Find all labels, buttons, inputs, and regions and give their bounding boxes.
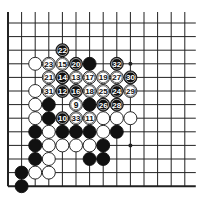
move-number: 21 xyxy=(44,73,53,82)
white-stone: 9 xyxy=(70,98,83,111)
black-stone xyxy=(29,125,42,138)
move-number: 23 xyxy=(44,60,53,69)
move-number: 26 xyxy=(99,101,108,110)
go-board: 2223152032211413171927303112161825242992… xyxy=(0,0,203,201)
move-number: 27 xyxy=(112,73,121,82)
white-stone xyxy=(29,57,42,70)
star-point xyxy=(128,143,132,147)
move-number: 19 xyxy=(99,73,108,82)
black-stone xyxy=(83,125,96,138)
black-stone: 30 xyxy=(124,71,137,84)
white-stone: 23 xyxy=(42,57,55,70)
white-stone xyxy=(29,85,42,98)
move-number: 20 xyxy=(72,60,81,69)
black-stone: 14 xyxy=(56,71,69,84)
move-number: 10 xyxy=(58,114,67,123)
black-stone xyxy=(42,98,55,111)
black-stone xyxy=(97,139,110,152)
black-stone xyxy=(70,125,83,138)
white-stone xyxy=(124,112,137,125)
white-stone xyxy=(70,139,83,152)
move-number: 16 xyxy=(72,87,81,96)
move-number: 13 xyxy=(72,73,81,82)
black-stone xyxy=(15,166,28,179)
move-number: 31 xyxy=(44,87,53,96)
move-number: 14 xyxy=(58,73,67,82)
move-number: 32 xyxy=(112,60,121,69)
move-number: 29 xyxy=(126,87,135,96)
white-stone: 33 xyxy=(70,112,83,125)
white-stone: 13 xyxy=(70,71,83,84)
black-stone xyxy=(29,139,42,152)
black-stone: 28 xyxy=(110,98,123,111)
black-stone: 20 xyxy=(70,57,83,70)
black-stone: 10 xyxy=(56,112,69,125)
white-stone: 18 xyxy=(83,85,96,98)
black-stone xyxy=(83,57,96,70)
black-stone: 32 xyxy=(110,57,123,70)
white-stone: 11 xyxy=(83,112,96,125)
move-number: 17 xyxy=(85,73,94,82)
white-stone xyxy=(29,98,42,111)
black-stone xyxy=(110,125,123,138)
white-stone: 25 xyxy=(97,85,110,98)
move-number: 22 xyxy=(58,46,67,55)
move-number: 9 xyxy=(74,100,79,110)
white-stone: 21 xyxy=(42,71,55,84)
move-number: 15 xyxy=(58,60,67,69)
black-stone: 24 xyxy=(110,85,123,98)
white-stone: 17 xyxy=(83,71,96,84)
move-number: 11 xyxy=(85,114,94,123)
black-stone xyxy=(97,153,110,166)
move-number: 33 xyxy=(72,114,81,123)
move-number: 18 xyxy=(85,87,94,96)
move-number: 24 xyxy=(112,87,121,96)
white-stone xyxy=(42,153,55,166)
white-stone: 29 xyxy=(124,85,137,98)
white-stone: 15 xyxy=(56,57,69,70)
black-stone xyxy=(56,125,69,138)
black-stone xyxy=(15,180,28,193)
white-stone: 19 xyxy=(97,71,110,84)
move-number: 30 xyxy=(126,73,135,82)
white-stone xyxy=(56,139,69,152)
white-stone: 31 xyxy=(42,85,55,98)
black-stone: 12 xyxy=(56,85,69,98)
black-stone xyxy=(83,153,96,166)
white-stone xyxy=(110,112,123,125)
black-stone: 16 xyxy=(70,85,83,98)
move-number: 12 xyxy=(58,87,67,96)
white-stone xyxy=(29,112,42,125)
star-point xyxy=(128,62,132,66)
move-number: 28 xyxy=(112,101,121,110)
white-stone xyxy=(42,139,55,152)
black-stone xyxy=(83,98,96,111)
white-stone: 27 xyxy=(110,71,123,84)
white-stone xyxy=(42,166,55,179)
move-number: 25 xyxy=(99,87,108,96)
white-stone xyxy=(97,112,110,125)
white-stone xyxy=(42,125,55,138)
black-stone xyxy=(29,153,42,166)
black-stone xyxy=(42,112,55,125)
white-stone xyxy=(83,139,96,152)
black-stone: 22 xyxy=(56,44,69,57)
white-stone xyxy=(97,125,110,138)
black-stone: 26 xyxy=(97,98,110,111)
white-stone xyxy=(29,166,42,179)
